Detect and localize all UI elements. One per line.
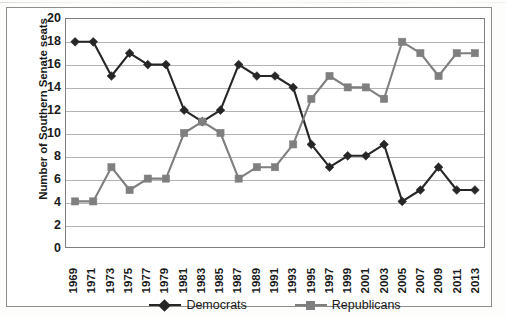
x-tick-label: 1993: [287, 267, 299, 293]
x-tick-label: 1997: [323, 267, 335, 293]
x-tick-label: 2009: [433, 267, 445, 293]
legend-label: Republicans: [332, 298, 401, 312]
y-tick-label: 18: [35, 35, 61, 48]
series-republicans: [72, 38, 479, 205]
y-tick-label: 16: [35, 58, 61, 71]
y-tick-label: 4: [35, 196, 61, 209]
series-line: [75, 42, 475, 202]
x-tick-label: 1981: [177, 267, 189, 293]
x-tick-label: 1985: [214, 267, 226, 293]
data-point-square: [399, 38, 406, 45]
x-tick-label: 1975: [122, 267, 134, 293]
y-tick-label: 12: [35, 104, 61, 117]
y-tick-label: 14: [35, 81, 61, 94]
data-point-square: [435, 72, 442, 79]
data-point-diamond: [71, 37, 80, 46]
x-tick-label: 1991: [269, 267, 281, 293]
data-point-square: [144, 175, 151, 182]
x-tick-label: 2011: [451, 268, 463, 293]
scan-artifact-line: [0, 2, 506, 3]
chart-legend: DemocratsRepublicans: [65, 294, 485, 316]
y-tick-label: 2: [35, 219, 61, 232]
y-tick-label: 8: [35, 150, 61, 163]
data-point-square: [380, 95, 387, 102]
x-axis-tick-labels: 1969197119731975197719791981198319851987…: [65, 251, 485, 293]
x-tick-label: 2007: [415, 267, 427, 293]
x-tick-label: 1999: [342, 267, 354, 293]
data-point-square: [271, 164, 278, 171]
data-point-square: [362, 84, 369, 91]
data-point-square: [290, 141, 297, 148]
plot-area: [65, 18, 485, 248]
data-point-square: [90, 198, 97, 205]
data-point-square: [217, 129, 224, 136]
data-point-square: [471, 50, 478, 57]
y-tick-label: 20: [35, 12, 61, 25]
x-tick-label: 1977: [141, 267, 153, 293]
data-point-square: [253, 164, 260, 171]
legend-marker-square-icon: [295, 299, 327, 311]
data-point-diamond: [89, 37, 98, 46]
y-axis-tick-labels: 20181614121086420: [35, 18, 61, 248]
data-point-square: [417, 50, 424, 57]
x-tick-label: 1983: [195, 267, 207, 293]
x-tick-label: 2005: [396, 267, 408, 293]
x-tick-label: 2013: [469, 267, 481, 293]
legend-entry-republicans[interactable]: Republicans: [295, 298, 401, 312]
y-tick-label: 6: [35, 173, 61, 186]
series-line: [75, 42, 475, 202]
chart-outer-frame: Number of Southern Senate seats 20181614…: [6, 7, 492, 307]
x-tick-label: 1969: [68, 267, 80, 293]
x-tick-label: 1973: [104, 267, 116, 293]
data-point-square: [344, 84, 351, 91]
data-point-diamond: [162, 60, 171, 69]
chart-figure: Number of Southern Senate seats 20181614…: [0, 0, 506, 316]
data-point-square: [199, 118, 206, 125]
y-tick-label: 0: [35, 242, 61, 255]
x-tick-label: 1995: [305, 267, 317, 293]
x-tick-label: 1987: [232, 267, 244, 293]
data-point-square: [326, 72, 333, 79]
data-point-square: [308, 95, 315, 102]
y-tick-label: 10: [35, 127, 61, 140]
x-tick-label: 1989: [250, 267, 262, 293]
x-tick-label: 1971: [86, 267, 98, 293]
legend-label: Democrats: [186, 298, 246, 312]
data-point-square: [235, 175, 242, 182]
x-tick-label: 1979: [159, 267, 171, 293]
x-tick-label: 2001: [360, 267, 372, 293]
legend-marker-diamond-icon: [149, 299, 181, 311]
data-point-square: [181, 129, 188, 136]
series-democrats: [71, 37, 480, 205]
legend-entry-democrats[interactable]: Democrats: [149, 298, 246, 312]
data-point-square: [108, 164, 115, 171]
x-tick-label: 2003: [378, 267, 390, 293]
plot-svg: [66, 19, 484, 247]
data-point-square: [453, 50, 460, 57]
data-point-square: [126, 186, 133, 193]
data-point-diamond: [471, 186, 480, 195]
data-point-square: [72, 198, 79, 205]
data-point-square: [162, 175, 169, 182]
